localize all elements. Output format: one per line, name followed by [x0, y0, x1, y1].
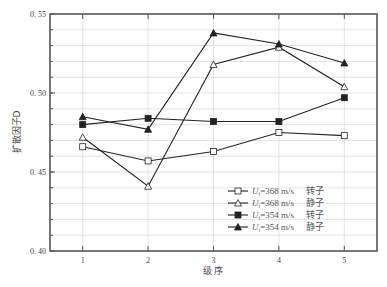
legend-item: Ut=354 m/s静子: [228, 221, 324, 233]
legend-label: Ut=368 m/s: [252, 186, 294, 197]
legend-item: Ut=368 m/s静子: [228, 197, 324, 209]
data-point: [79, 134, 86, 141]
legend-label-cn: 静子: [306, 197, 324, 208]
y-tick-label: 0. 50: [30, 89, 46, 98]
data-point: [341, 133, 347, 139]
legend: Ut=368 m/s转子Ut=368 m/s静子Ut=354 m/s转子Ut=3…: [228, 185, 324, 233]
data-point: [276, 118, 282, 124]
chart: 123450. 400. 450. 500. 55 Ut=368 m/s转子Ut…: [0, 0, 387, 287]
legend-label: Ut=354 m/s: [252, 210, 294, 221]
data-point: [341, 83, 348, 90]
data-point: [210, 29, 217, 36]
data-point: [79, 113, 86, 120]
grid: [50, 14, 377, 251]
legend-label-cn: 转子: [306, 209, 324, 220]
x-tick-label: 4: [277, 256, 281, 265]
data-point: [80, 122, 86, 128]
legend-label: Ut=354 m/s: [252, 222, 294, 233]
data-point: [211, 118, 217, 124]
legend-item: Ut=368 m/s转子: [228, 185, 324, 197]
y-tick-label: 0. 40: [30, 247, 46, 256]
x-tick-label: 1: [81, 256, 85, 265]
legend-label-cn: 静子: [306, 221, 324, 232]
data-point: [211, 148, 217, 154]
x-axis-title: 级 序: [203, 265, 224, 276]
data-point: [80, 144, 86, 150]
x-tick-label: 2: [146, 256, 150, 265]
legend-label-cn: 转子: [306, 185, 324, 196]
data-point: [145, 115, 151, 121]
legend-marker: [235, 212, 241, 218]
ticks: 123450. 400. 450. 500. 55: [30, 10, 346, 265]
data-point: [145, 158, 151, 164]
data-point: [276, 130, 282, 136]
legend-label: Ut=368 m/s: [252, 198, 294, 209]
x-tick-label: 5: [342, 256, 346, 265]
data-point: [145, 183, 152, 190]
data-point: [341, 95, 347, 101]
y-tick-label: 0. 55: [30, 10, 46, 19]
y-axis-title: 扩散因子D: [11, 110, 22, 153]
x-tick-label: 3: [212, 256, 216, 265]
legend-marker: [235, 188, 241, 194]
y-tick-label: 0. 45: [30, 168, 46, 177]
